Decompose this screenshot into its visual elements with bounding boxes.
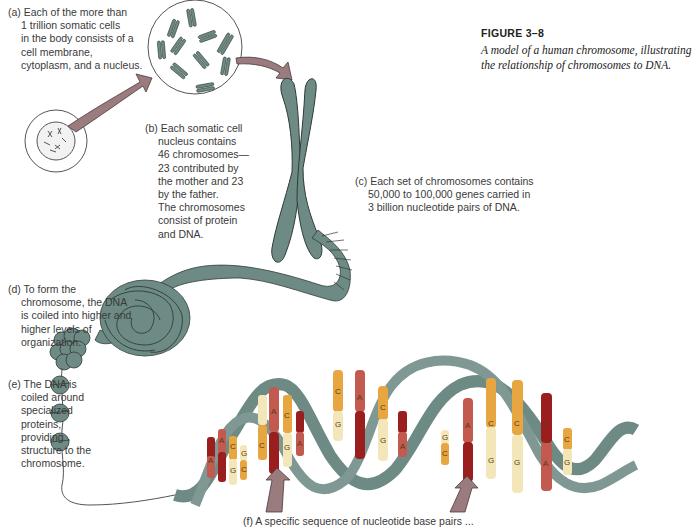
figure-caption: A model of a human chromosome, illustrat… — [481, 43, 692, 73]
label-c: (c) Each set of chromosomes contains 50,… — [355, 175, 534, 215]
svg-text:G: G — [335, 420, 341, 429]
svg-text:C: C — [230, 442, 236, 451]
label-d-line: is coiled into higher and — [8, 309, 131, 322]
label-c-line: 3 billion nucleotide pairs of DNA. — [355, 201, 534, 214]
svg-text:C: C — [514, 419, 520, 428]
label-e: (e) The DNA is coiled around specialized… — [8, 378, 91, 470]
label-f: (f) A specific sequence of nucleotide ba… — [243, 515, 474, 528]
svg-text:C: C — [241, 465, 247, 474]
label-c-line: 50,000 to 100,000 genes carried in — [355, 188, 534, 201]
svg-text:C: C — [380, 403, 386, 412]
label-b-line: (b) Each somatic cell — [145, 122, 242, 134]
label-e-line: structure to the — [8, 444, 91, 457]
svg-text:G: G — [564, 458, 570, 467]
label-a-line: 1 trillion somatic cells — [8, 19, 142, 32]
svg-text:A: A — [219, 436, 225, 445]
label-d: (d) To form the chromosome, the DNA is c… — [8, 283, 131, 349]
label-a-line: cell membrane, — [8, 46, 142, 59]
label-b-line: 23 contributed by — [145, 162, 249, 175]
svg-text:A: A — [400, 442, 406, 451]
svg-text:T: T — [543, 418, 548, 427]
label-b-line: The chromosomes — [145, 201, 249, 214]
label-a: (a) Each of the more than 1 trillion som… — [8, 6, 142, 72]
caption-line: the relationship of chromosomes to DNA. — [481, 58, 692, 73]
label-b: (b) Each somatic cell nucleus contains 4… — [145, 122, 249, 241]
label-e-line: chromosome. — [8, 457, 91, 470]
label-e-line: (e) The DNA is — [8, 378, 77, 390]
svg-text:G: G — [380, 436, 386, 445]
label-f-line: (f) A specific sequence of nucleotide ba… — [243, 515, 474, 527]
svg-text:C: C — [259, 441, 265, 450]
caption-line: A model of a human chromosome, illustrat… — [481, 43, 692, 58]
label-c-line: (c) Each set of chromosomes contains — [355, 175, 534, 187]
label-a-line: in the body consists of a — [8, 32, 142, 45]
label-d-line: organization. — [8, 336, 131, 349]
svg-text:C: C — [564, 435, 570, 444]
arrow-f-right — [450, 476, 478, 512]
label-b-line: 46 chromosomes— — [145, 148, 249, 161]
svg-text:G: G — [488, 456, 494, 465]
label-d-line: (d) To form the — [8, 283, 76, 295]
svg-text:C: C — [442, 449, 448, 458]
nucleus-icon — [148, 0, 242, 94]
label-e-line: specialized — [8, 404, 91, 417]
label-b-line: the mother and 23 — [145, 175, 249, 188]
arrow-cell-to-nucleus — [68, 74, 152, 132]
label-b-line: by the father. — [145, 188, 249, 201]
arrow-f-left — [266, 468, 290, 512]
label-b-line: nucleus contains — [145, 135, 249, 148]
label-d-line: chromosome, the DNA — [8, 296, 131, 309]
label-b-line: and DNA. — [145, 228, 249, 241]
svg-text:A: A — [271, 407, 277, 416]
svg-text:A: A — [208, 456, 214, 465]
svg-text:G: G — [514, 458, 520, 467]
label-a-line: (a) Each of the more than — [8, 6, 127, 18]
svg-text:A: A — [357, 393, 363, 402]
label-e-line: proteins, — [8, 418, 91, 431]
label-b-line: consist of protein — [145, 214, 249, 227]
svg-text:C: C — [335, 387, 341, 396]
label-a-line: cytoplasm, and a nucleus. — [8, 59, 142, 72]
arrow-nucleus-to-chromosome — [236, 57, 292, 80]
svg-text:G: G — [230, 466, 236, 475]
svg-text:C: C — [488, 419, 494, 428]
label-e-line: coiled around — [8, 391, 91, 404]
svg-text:A: A — [543, 459, 549, 468]
label-e-line: providing — [8, 431, 91, 444]
svg-text:A: A — [465, 421, 471, 430]
svg-text:G: G — [241, 449, 247, 458]
svg-text:G: G — [442, 433, 448, 442]
label-d-line: higher levels of — [8, 323, 131, 336]
svg-text:G: G — [284, 443, 290, 452]
svg-text:A: A — [297, 439, 303, 448]
svg-text:C: C — [284, 411, 290, 420]
figure-number: FIGURE 3–8 — [481, 27, 544, 39]
